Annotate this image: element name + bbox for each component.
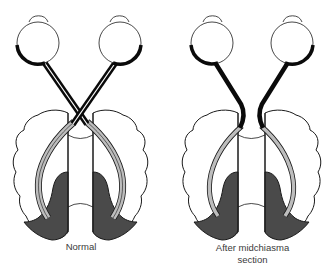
left-eye	[191, 16, 233, 64]
panel-after-midchiasma-section	[182, 16, 321, 240]
caption-after-line1: After midchiasma	[205, 242, 300, 254]
caption-normal-text: Normal	[66, 241, 97, 252]
caption-after-line2: section	[205, 254, 300, 266]
right-eye	[99, 16, 141, 64]
caption-normal: Normal	[55, 241, 107, 253]
caption-after-section: After midchiasma section	[205, 242, 300, 266]
visual-pathway-diagram	[0, 0, 335, 271]
panel-normal	[13, 16, 148, 240]
left-eye	[17, 16, 59, 64]
right-eye	[271, 16, 313, 64]
